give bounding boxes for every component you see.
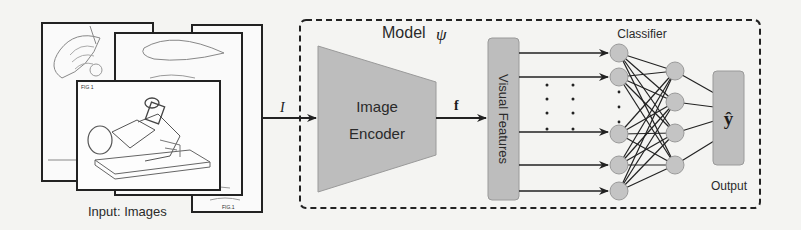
encoder-label-line2: Encoder: [349, 125, 405, 142]
model-symbol: ψ: [436, 25, 447, 44]
neuron-node: [610, 125, 628, 143]
output-label: Output: [711, 179, 748, 193]
output-block: ŷ: [713, 71, 744, 165]
visual-features-label: Visual Features: [496, 74, 511, 165]
feature-symbol-label: f: [454, 98, 459, 113]
image-encoder-block: Image Encoder: [318, 46, 436, 192]
feature-arrows: [519, 53, 608, 191]
input-images-label: Input: Images: [88, 204, 167, 219]
output-symbol: ŷ: [724, 108, 734, 129]
neuron-node: [666, 156, 684, 174]
neuron-node: [666, 93, 684, 111]
input-images-stack: FIG.1 FIG 1: [42, 23, 262, 219]
page-caption: FIG 1: [81, 84, 94, 90]
ellipsis-dots: [546, 84, 621, 131]
neuron-node: [610, 68, 628, 86]
neuron-node: [610, 44, 628, 62]
patent-page-front: FIG 1: [77, 81, 220, 190]
encoder-label-line1: Image: [356, 98, 398, 115]
pipeline-diagram: FIG.1 FIG 1: [0, 0, 801, 230]
model-title: Model: [382, 24, 426, 41]
neuron-node: [666, 62, 684, 80]
input-symbol-label: I: [279, 100, 286, 115]
neuron-node: [610, 156, 628, 174]
neuron-node: [610, 182, 628, 200]
page-caption: FIG.1: [222, 204, 235, 210]
neuron-node: [666, 124, 684, 142]
classifier-label: Classifier: [617, 27, 666, 41]
visual-features-block: Visual Features: [488, 38, 519, 200]
